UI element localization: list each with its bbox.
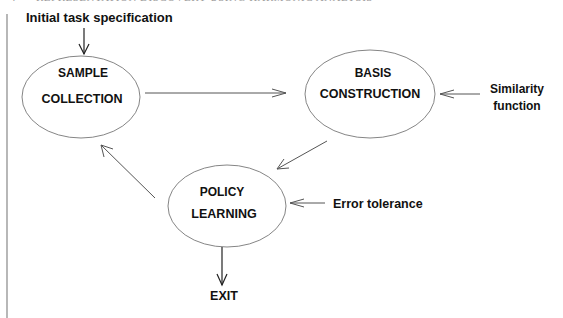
initial-task-label: Initial task specification (26, 10, 173, 25)
arrow-policy-to-sample (101, 145, 155, 198)
error-tolerance-label: Error tolerance (333, 197, 423, 211)
arrow-basis-to-policy (277, 141, 327, 169)
sample-collection-line2: COLLECTION (41, 92, 122, 106)
initial-arrow (79, 28, 89, 54)
similarity-label-line1: Similarity (490, 82, 544, 96)
basis-construction-line2: CONSTRUCTION (320, 87, 421, 101)
workflow-diagram: Initial task specification SAMPLE COLLEC… (0, 0, 563, 318)
policy-learning-line2: LEARNING (191, 207, 256, 221)
arrow-sample-to-basis (145, 89, 286, 97)
node-sample-collection: SAMPLE COLLECTION (22, 56, 140, 138)
node-policy-learning: POLICY LEARNING (168, 165, 286, 247)
basis-construction-line1: BASIS (355, 66, 392, 80)
arrow-policy-to-exit (217, 247, 227, 285)
sample-collection-line1: SAMPLE (58, 66, 108, 80)
similarity-label-line2: function (493, 99, 540, 113)
arrow-similarity-to-basis (440, 90, 480, 98)
policy-learning-ellipse (168, 165, 286, 247)
policy-learning-line1: POLICY (200, 185, 245, 199)
document-page: 4REPRESENTATION DISCOVERY USING HARMONIC… (0, 0, 563, 318)
node-basis-construction: BASIS CONSTRUCTION (305, 50, 435, 138)
arrow-error-to-policy (290, 199, 325, 207)
exit-label: EXIT (210, 289, 238, 303)
